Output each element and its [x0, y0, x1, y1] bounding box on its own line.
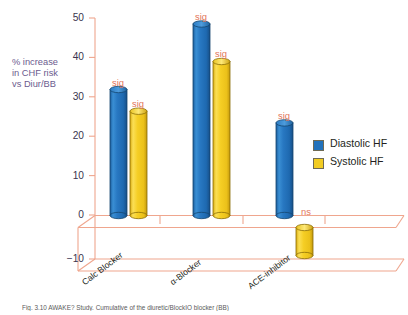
annotation-diastolic-ace-inhibitor: sig	[271, 110, 297, 121]
y-tick-label-0: 0	[58, 209, 84, 221]
bar-group-ace-inhibitor	[276, 120, 313, 259]
y-axis-spine	[89, 18, 95, 259]
legend-label-diastolic-hf: Diastolic HF	[330, 137, 387, 149]
bar-systolic-calc-blocker[interactable]	[130, 108, 147, 219]
y-tick-label-20: 20	[58, 130, 84, 142]
figure-container: % increasein CHF riskvs Diur/BB 50 40 30…	[0, 0, 408, 315]
legend-swatch-diastolic-hf	[313, 140, 324, 151]
y-tick-label-minus-10: −10	[52, 253, 84, 265]
y-tick-label-50: 50	[58, 12, 84, 24]
y-tick-label-30: 30	[58, 91, 84, 103]
y-tick-label-40: 40	[58, 51, 84, 63]
y-axis-label-line-3: vs Diur/BB	[12, 79, 56, 89]
annotation-systolic-calc-blocker: sig	[125, 98, 151, 109]
figure-caption: Fig. 3.10 AWAKE? Study. Cumulative of th…	[22, 304, 402, 311]
bar-diastolic-ace-inhibitor[interactable]	[276, 120, 293, 219]
bar-systolic-ace-inhibitor[interactable]	[296, 224, 313, 258]
annotation-systolic-alpha-blocker: sig	[208, 48, 234, 59]
chart-floor-plane	[78, 216, 404, 272]
bar-systolic-alpha-blocker[interactable]	[213, 58, 230, 218]
annotation-diastolic-alpha-blocker: sig	[188, 11, 214, 22]
y-tick-label-10: 10	[58, 170, 84, 182]
legend-swatch-systolic-hf	[313, 158, 324, 169]
legend-label-systolic-hf: Systolic HF	[330, 155, 384, 167]
annotation-systolic-ace-inhibitor: ns	[293, 206, 319, 217]
annotation-diastolic-calc-blocker: sig	[105, 77, 131, 88]
y-axis-label-line-2: in CHF risk	[12, 68, 58, 78]
y-axis-label-line-1: % increase	[12, 57, 58, 67]
